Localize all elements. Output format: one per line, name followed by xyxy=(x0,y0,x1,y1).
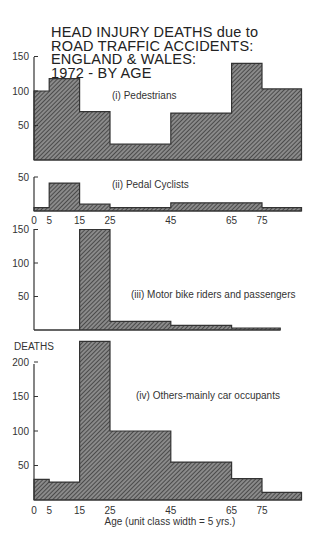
histogram-bars xyxy=(34,341,302,500)
x-tick-label: 0 xyxy=(31,505,37,516)
y-tick-label: 50 xyxy=(18,460,30,471)
panel-label: (ii) Pedal Cyclists xyxy=(112,179,189,190)
y-tick-label: 200 xyxy=(12,357,29,368)
panel-2: 50(ii) Pedal Cyclists051525456575 xyxy=(18,172,302,227)
x-tick-label: 0 xyxy=(31,215,37,226)
panel-3: 50100150(iii) Motor bike riders and pass… xyxy=(12,224,295,330)
panel-label: (i) Pedestrians xyxy=(112,90,176,101)
y-tick-label: 100 xyxy=(12,426,29,437)
x-axis-label: Age (unit class width = 5 yrs.) xyxy=(105,516,236,527)
y-tick-label: 100 xyxy=(12,258,29,269)
x-tick-label: 5 xyxy=(46,505,52,516)
panel-4: 50100150200(iv) Others-mainly car occupa… xyxy=(12,341,301,516)
y-tick-label: 150 xyxy=(12,51,29,62)
y-tick-label: 100 xyxy=(12,86,29,97)
histogram-bars xyxy=(34,63,302,160)
y-tick-label: 50 xyxy=(18,291,30,302)
histogram-figure: 50100150(i) Pedestrians50(ii) Pedal Cycl… xyxy=(0,0,325,537)
x-tick-label: 45 xyxy=(165,215,177,226)
y-tick-label: 150 xyxy=(12,224,29,235)
x-tick-label: 45 xyxy=(165,505,177,516)
x-tick-label: 5 xyxy=(46,215,52,226)
x-tick-label: 75 xyxy=(256,505,268,516)
panel-label: (iv) Others-mainly car occupants xyxy=(136,390,280,401)
x-tick-label: 15 xyxy=(74,215,86,226)
panel-label: (iii) Motor bike riders and passengers xyxy=(131,289,296,300)
panel-1: 50100150(i) Pedestrians xyxy=(12,51,301,160)
x-tick-label: 25 xyxy=(104,505,116,516)
x-tick-label: 15 xyxy=(74,505,86,516)
y-tick-label: 150 xyxy=(12,391,29,402)
x-tick-label: 65 xyxy=(226,215,238,226)
y-axis-label: DEATHS xyxy=(14,341,54,352)
x-tick-label: 65 xyxy=(226,505,238,516)
y-tick-label: 50 xyxy=(18,172,30,183)
histogram-bars xyxy=(34,230,280,331)
y-tick-label: 50 xyxy=(18,120,30,131)
x-tick-label: 75 xyxy=(256,215,268,226)
x-tick-label: 25 xyxy=(104,215,116,226)
